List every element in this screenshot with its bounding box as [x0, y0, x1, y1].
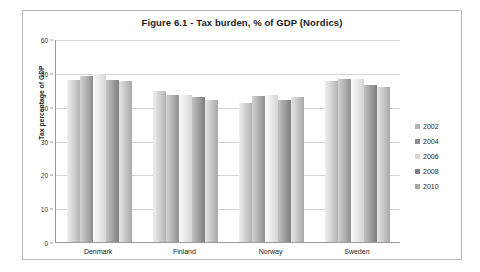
bar — [351, 79, 364, 242]
y-axis-ticks: 6050403020100 — [23, 40, 53, 243]
legend-label: 2010 — [423, 183, 439, 190]
legend-label: 2004 — [423, 138, 439, 145]
y-tick-mark — [50, 141, 53, 142]
bar — [205, 100, 218, 242]
bar — [239, 103, 252, 242]
bar — [67, 80, 80, 242]
bar — [93, 74, 106, 242]
y-tick-label: 0 — [44, 240, 48, 247]
bar — [252, 96, 265, 242]
y-tick-mark — [50, 40, 53, 41]
bar-group — [315, 40, 401, 242]
chart-frame: Figure 6.1 - Tax burden, % of GDP (Nordi… — [22, 10, 462, 260]
category-label: Sweden — [344, 248, 369, 255]
category-label: Finland — [173, 248, 196, 255]
bar-group — [229, 40, 315, 242]
y-tick-mark — [50, 209, 53, 210]
y-tick-label: 30 — [41, 138, 48, 145]
bar — [166, 95, 179, 242]
legend-label: 2006 — [423, 153, 439, 160]
bar — [265, 95, 278, 242]
legend-label: 2002 — [423, 123, 439, 130]
plot-area — [55, 40, 400, 243]
y-tick-mark — [50, 107, 53, 108]
bar — [325, 81, 338, 242]
legend-swatch-icon — [415, 154, 420, 159]
bar — [179, 95, 192, 242]
bar — [119, 81, 132, 242]
category-label: Norway — [259, 248, 283, 255]
legend-item[interactable]: 2006 — [415, 149, 461, 164]
chart-title: Figure 6.1 - Tax burden, % of GDP (Nordi… — [23, 17, 461, 28]
bar — [153, 91, 166, 242]
legend-swatch-icon — [415, 169, 420, 174]
legend-item[interactable]: 2010 — [415, 179, 461, 194]
bar — [291, 97, 304, 242]
bar — [278, 100, 291, 242]
y-tick-label: 40 — [41, 104, 48, 111]
y-tick-mark — [50, 175, 53, 176]
y-tick-label: 60 — [41, 37, 48, 44]
y-tick-label: 10 — [41, 206, 48, 213]
legend-swatch-icon — [415, 124, 420, 129]
y-tick-mark — [50, 243, 53, 244]
legend-label: 2008 — [423, 168, 439, 175]
bar — [338, 79, 351, 242]
legend-swatch-icon — [415, 184, 420, 189]
bar-group — [142, 40, 228, 242]
category-label: Denmark — [84, 248, 112, 255]
chart-legend: 20022004200620082010 — [415, 119, 461, 194]
y-tick-mark — [50, 73, 53, 74]
bar — [80, 76, 93, 242]
bar — [364, 85, 377, 242]
legend-item[interactable]: 2002 — [415, 119, 461, 134]
bar — [377, 87, 390, 242]
bar — [106, 80, 119, 242]
legend-item[interactable]: 2004 — [415, 134, 461, 149]
bar — [192, 97, 205, 242]
legend-item[interactable]: 2008 — [415, 164, 461, 179]
y-tick-label: 20 — [41, 172, 48, 179]
bar-group — [56, 40, 142, 242]
legend-swatch-icon — [415, 139, 420, 144]
y-tick-label: 50 — [41, 70, 48, 77]
